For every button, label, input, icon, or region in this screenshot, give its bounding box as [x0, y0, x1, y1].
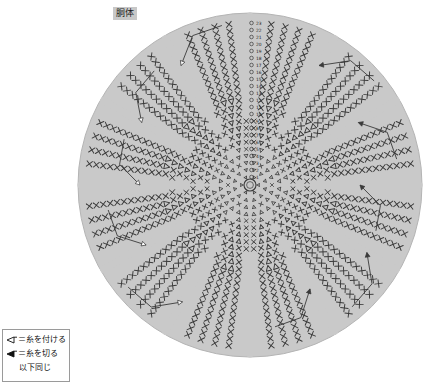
crochet-chart-root: 1234567891011121314151617181920212223 胴体…	[0, 0, 439, 390]
cut-yarn-arrow-glyph	[6, 350, 18, 358]
svg-text:2: 2	[256, 168, 259, 173]
legend-label-attach-yarn: ＝糸を付ける	[18, 334, 66, 346]
svg-text:17: 17	[256, 63, 262, 68]
attach-yarn-arrow-glyph	[6, 336, 18, 344]
svg-text:23: 23	[256, 21, 262, 26]
svg-text:14: 14	[256, 84, 262, 89]
svg-text:19: 19	[256, 49, 262, 54]
svg-text:21: 21	[256, 35, 262, 40]
svg-text:12: 12	[256, 98, 262, 103]
legend-label-cut-yarn: ＝糸を切る	[18, 348, 58, 360]
legend-item-attach-yarn: ＝糸を付ける	[6, 333, 67, 347]
legend: ＝糸を付ける ＝糸を切る 以下同じ	[2, 329, 70, 382]
svg-text:16: 16	[256, 70, 262, 75]
svg-text:13: 13	[256, 91, 262, 96]
cut-yarn-arrow-icon	[6, 350, 18, 358]
svg-text:9: 9	[256, 119, 259, 124]
svg-text:5: 5	[256, 147, 259, 152]
legend-item-note: 以下同じ	[6, 361, 67, 375]
svg-text:10: 10	[256, 112, 262, 117]
svg-text:18: 18	[256, 56, 262, 61]
svg-text:1: 1	[256, 175, 259, 180]
svg-text:20: 20	[256, 42, 262, 47]
svg-text:7: 7	[256, 133, 259, 138]
svg-text:11: 11	[256, 105, 262, 110]
legend-item-cut-yarn: ＝糸を切る	[6, 347, 67, 361]
svg-text:6: 6	[256, 140, 259, 145]
svg-text:15: 15	[256, 77, 262, 82]
svg-text:4: 4	[256, 154, 259, 159]
attach-yarn-arrow-icon	[6, 336, 18, 344]
svg-text:3: 3	[256, 161, 259, 166]
legend-label-note: 以下同じ	[19, 362, 51, 374]
page-title: 胴体	[113, 7, 137, 20]
svg-text:22: 22	[256, 28, 262, 33]
svg-text:8: 8	[256, 126, 259, 131]
